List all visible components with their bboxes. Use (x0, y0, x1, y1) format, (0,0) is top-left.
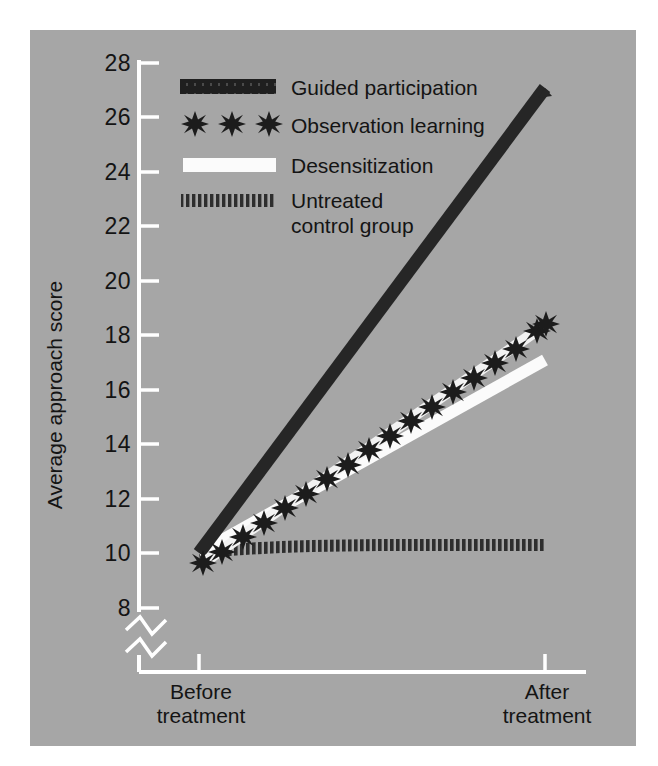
y-axis-title-text: Average approach score (43, 281, 66, 509)
x-tick-label-before-line2: treatment (157, 704, 246, 727)
chart-legend: Guided participation Observation learnin… (180, 76, 485, 237)
y-tick-label: 22 (104, 213, 131, 239)
series-line-untreated-control (199, 545, 545, 553)
y-tick-label: 28 (104, 50, 131, 76)
series-untreated-control-group (199, 545, 545, 553)
y-tick-label: 8 (118, 595, 131, 621)
x-tick-label-before-line1: Before (170, 680, 232, 703)
legend-swatch-three-stars (181, 111, 283, 137)
legend-label-control-group: control group (291, 214, 414, 237)
y-tick-label: 10 (104, 540, 131, 566)
legend-label-untreated: Untreated (291, 189, 383, 212)
x-tick-label-after-line2: treatment (503, 704, 592, 727)
axis-break-lower-icon (126, 639, 166, 656)
y-tick-labels: 28 26 24 22 20 18 16 14 12 10 8 (104, 50, 131, 621)
legend-item-guided-participation: Guided participation (180, 76, 478, 99)
legend-label-guided-participation: Guided participation (291, 76, 478, 99)
legend-swatch-solid-dark-bar (180, 79, 276, 94)
x-tick-label-after-line1: After (525, 680, 569, 703)
axis-break-upper-icon (126, 617, 166, 634)
y-axis-title: Average approach score (43, 281, 66, 509)
y-axis-ticks (139, 63, 159, 608)
series-observation-learning (189, 311, 560, 576)
y-tick-label: 16 (104, 377, 131, 403)
legend-swatch-solid-white-bar (183, 158, 276, 172)
legend-label-observation-learning: Observation learning (291, 114, 485, 137)
legend-item-desensitization: Desensitization (183, 154, 433, 177)
y-tick-label: 26 (104, 104, 131, 130)
x-tick-labels: Before treatment After treatment (157, 680, 592, 727)
y-tick-label: 24 (104, 159, 131, 185)
y-tick-label: 14 (104, 431, 131, 457)
legend-swatch-hatched-dark-bar (181, 194, 276, 207)
legend-item-observation-learning: Observation learning (181, 111, 485, 137)
legend-label-desensitization: Desensitization (291, 154, 433, 177)
legend-item-untreated-control-group: Untreated control group (181, 189, 414, 237)
figure-container: 28 26 24 22 20 18 16 14 12 10 8 Average … (0, 0, 658, 766)
y-tick-label: 18 (104, 322, 131, 348)
y-tick-label: 12 (104, 486, 131, 512)
y-axis (126, 60, 166, 672)
x-axis (139, 654, 586, 672)
y-tick-label: 20 (104, 268, 131, 294)
chart-svg: 28 26 24 22 20 18 16 14 12 10 8 Average … (0, 0, 658, 766)
